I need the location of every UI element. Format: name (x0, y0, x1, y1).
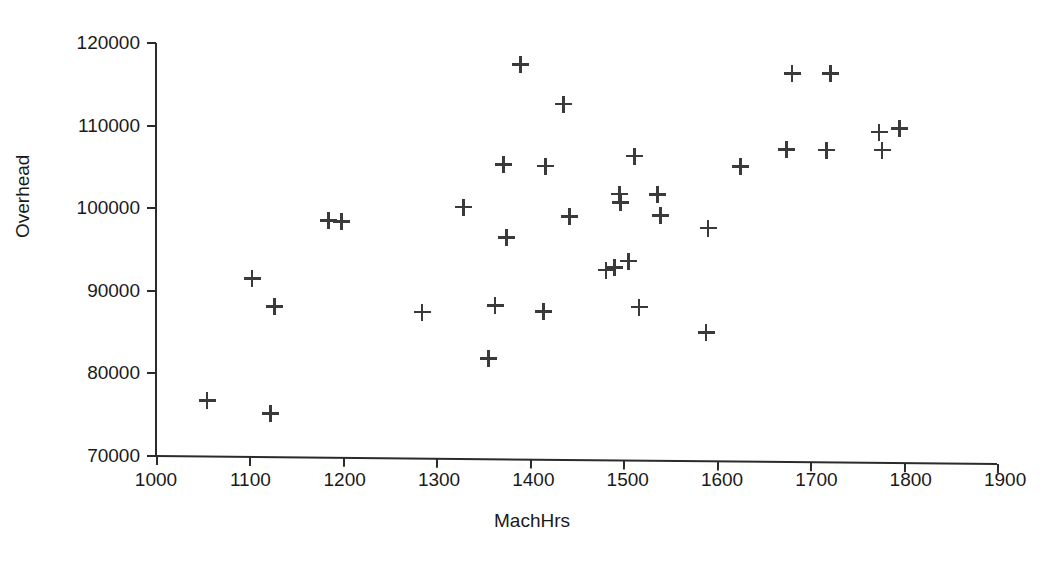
y-axis-tick-label: 90000 (87, 281, 140, 300)
y-axis-tick (147, 372, 156, 374)
y-axis-tick (147, 455, 156, 457)
data-point-marker (487, 297, 504, 314)
data-point-marker (626, 148, 643, 165)
scatter-plot-figure: Overhead 7000080000900001000001100001200… (0, 0, 1064, 567)
data-point-marker (620, 253, 637, 270)
x-axis-tick-label: 1000 (135, 470, 177, 489)
data-point-marker (612, 194, 629, 211)
x-axis-tick (343, 458, 345, 467)
data-point-marker (266, 298, 283, 315)
data-point-marker (652, 207, 669, 224)
x-axis-tick-label: 1500 (607, 470, 649, 489)
data-point-marker (535, 303, 552, 320)
data-point-marker (455, 199, 472, 216)
x-axis-tick-label: 1700 (795, 470, 837, 489)
data-point-marker (732, 158, 749, 175)
x-axis-title: MachHrs (0, 510, 1064, 532)
data-point-marker (606, 259, 623, 276)
data-point-marker (199, 392, 216, 409)
data-point-marker (244, 270, 261, 287)
data-point-marker (649, 186, 666, 203)
data-point-marker (818, 142, 835, 159)
x-axis-tick-label: 1400 (512, 470, 554, 489)
data-point-marker (414, 304, 431, 321)
x-axis-tick (436, 459, 438, 468)
x-axis-tick-label: 1300 (418, 470, 460, 489)
data-point-marker (537, 158, 554, 175)
data-point-marker (784, 65, 801, 82)
data-point-marker (778, 141, 795, 158)
plot-area (156, 43, 997, 456)
y-axis-tick-label: 110000 (78, 116, 140, 135)
data-point-marker (874, 142, 891, 159)
data-point-marker (555, 96, 572, 113)
data-point-marker (512, 56, 529, 73)
y-axis-tick-label: 100000 (77, 198, 140, 217)
data-point-marker (822, 65, 839, 82)
y-axis-tick-label: 70000 (87, 446, 140, 465)
data-point-marker (700, 220, 717, 237)
y-axis-tick (147, 207, 156, 209)
data-point-marker (495, 156, 512, 173)
y-axis-tick-labels: 700008000090000100000110000120000 (0, 0, 140, 567)
data-point-marker (871, 124, 888, 141)
data-point-marker (598, 262, 615, 279)
x-axis-tick (249, 457, 251, 466)
x-axis-tick-label: 1100 (230, 470, 271, 489)
data-point-marker (480, 350, 497, 367)
data-point-marker (561, 208, 578, 225)
y-axis-tick-label: 80000 (87, 363, 140, 382)
data-point-marker (631, 299, 648, 316)
x-axis-tick-label: 1200 (324, 470, 366, 489)
data-point-marker (320, 212, 337, 229)
x-axis-tick-label: 1900 (984, 470, 1026, 489)
x-axis-tick (156, 456, 158, 465)
x-axis-tick (530, 460, 532, 469)
x-axis-tick-label: 1800 (890, 470, 932, 489)
data-point-marker (891, 120, 908, 137)
y-axis-tick-label: 120000 (77, 33, 140, 52)
x-axis-tick-label: 1600 (701, 470, 743, 489)
data-point-marker (611, 186, 628, 203)
data-point-marker (498, 229, 515, 246)
data-point-marker (262, 405, 279, 422)
y-axis-tick (147, 42, 156, 44)
y-axis-tick (147, 125, 156, 127)
data-point-marker (698, 324, 715, 341)
y-axis-tick (147, 290, 156, 292)
data-point-marker (333, 213, 350, 230)
